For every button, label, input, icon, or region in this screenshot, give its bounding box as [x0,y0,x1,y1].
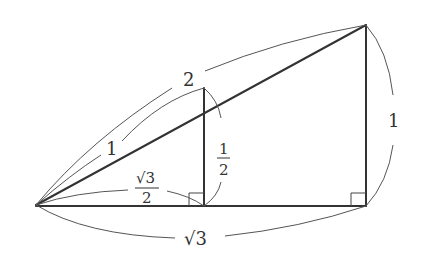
arc-hypotenuse-small-right [122,88,204,141]
fraction-denominator: 2 [142,189,152,207]
label-hypotenuse-large: 2 [183,69,194,90]
arc-vertical-large-top [366,25,393,95]
arc-vertical-small-top [204,88,221,118]
arc-hypotenuse-small-left [36,155,101,205]
label-hypotenuse-small: 1 [106,138,117,159]
fraction-denominator: 2 [219,161,229,179]
triangle-diagram: 2 1 1 1 2 √3 2 √3 [0,0,424,265]
arc-vertical-large-bottom [366,145,393,206]
label-base-large: √3 [184,228,207,249]
arc-vertical-small-bottom [204,182,221,206]
arc-base-large-left [36,205,175,238]
label-vertical-small: 1 2 [217,140,230,179]
fraction-numerator: √3 [136,169,155,187]
arc-base-large-right [225,206,366,236]
arc-hypotenuse-large-right [205,25,366,71]
fraction-numerator: 1 [219,140,229,158]
hypotenuse-large [36,25,366,205]
label-base-small: √3 2 [135,169,159,207]
label-vertical-large: 1 [388,110,399,131]
right-angle-mark-large [351,193,366,206]
